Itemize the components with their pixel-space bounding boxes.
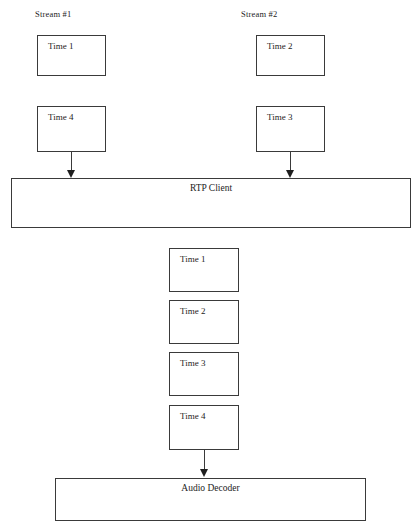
packet-label: Time 4: [48, 112, 73, 122]
incoming-packet-stream1-time4: Time 4: [37, 106, 106, 152]
ordered-packet-2: Time 2: [169, 300, 239, 344]
rtp-client-label: RTP Client: [12, 183, 410, 193]
arrowhead-icon: [200, 469, 208, 477]
diagram-canvas: Stream #1 Stream #2 Time 1 Time 2 Time 4…: [0, 0, 414, 530]
arrowhead-icon: [67, 170, 75, 178]
packet-label: Time 2: [267, 41, 292, 51]
ordered-packet-3: Time 3: [169, 352, 239, 396]
stream-label-2: Stream #2: [241, 9, 278, 19]
packet-label: Time 4: [180, 411, 205, 421]
packet-label: Time 1: [180, 254, 205, 264]
incoming-packet-stream2-time3: Time 3: [256, 106, 325, 152]
ordered-packet-1: Time 1: [169, 248, 239, 292]
packet-label: Time 2: [180, 306, 205, 316]
rtp-client-block: RTP Client: [11, 178, 411, 228]
incoming-packet-stream1-time1: Time 1: [37, 35, 106, 76]
packet-label: Time 1: [48, 41, 73, 51]
packet-label: Time 3: [180, 358, 205, 368]
arrowhead-icon: [286, 170, 294, 178]
incoming-packet-stream2-time2: Time 2: [256, 35, 325, 76]
ordered-packet-4: Time 4: [169, 405, 239, 450]
packet-label: Time 3: [267, 112, 292, 122]
stream-label-1: Stream #1: [35, 9, 72, 19]
audio-decoder-block: Audio Decoder: [55, 478, 366, 521]
audio-decoder-label: Audio Decoder: [56, 483, 365, 493]
